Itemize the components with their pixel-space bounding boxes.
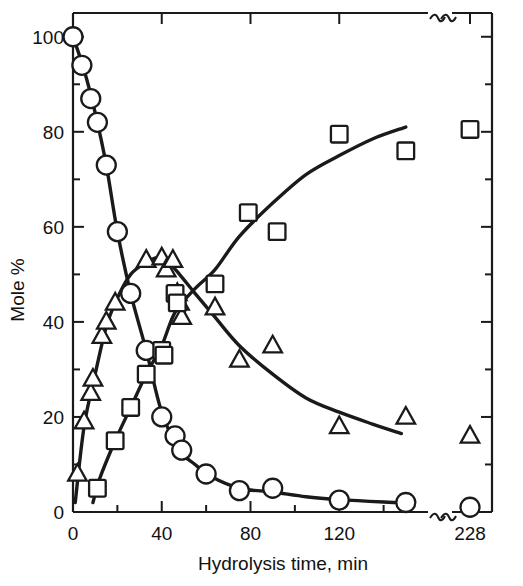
marker-triangle	[397, 407, 416, 424]
x-tick-label: 80	[240, 523, 261, 544]
marker-triangle	[84, 369, 103, 386]
marker-circle	[72, 56, 91, 75]
figure-canvas: 04080120228020406080100 Hydrolysis time,…	[0, 0, 523, 586]
y-tick-label: 0	[53, 502, 64, 523]
y-tick-label: 60	[43, 217, 64, 238]
marker-triangle	[75, 412, 94, 429]
marker-circle	[152, 407, 171, 426]
marker-square	[169, 295, 186, 312]
marker-square	[89, 480, 106, 497]
marker-square	[156, 347, 173, 364]
marker-square	[122, 399, 139, 416]
axis-break-marks	[430, 15, 456, 521]
marker-circle	[330, 491, 349, 510]
y-tick-label: 100	[32, 27, 64, 48]
y-tick-label: 40	[43, 312, 64, 333]
tick-labels: 04080120228020406080100	[32, 27, 486, 544]
y-tick-label: 80	[43, 122, 64, 143]
axis-ticks	[73, 13, 492, 512]
x-tick-label: 0	[68, 523, 79, 544]
x-tick-label: 228	[454, 523, 486, 544]
marker-square	[138, 366, 155, 383]
marker-triangle	[97, 312, 116, 329]
marker-square	[107, 432, 124, 449]
y-tick-label: 20	[43, 407, 64, 428]
axis-break-bottom-icon	[430, 514, 456, 521]
marker-circle	[461, 498, 480, 517]
hydrolysis-chart: 04080120228020406080100 Hydrolysis time,…	[0, 0, 523, 586]
marker-square	[269, 223, 286, 240]
marker-triangle	[206, 298, 225, 315]
marker-triangle	[68, 464, 87, 481]
marker-circle	[64, 27, 83, 46]
marker-circle	[172, 441, 191, 460]
marker-triangle	[263, 336, 282, 353]
marker-square	[240, 204, 257, 221]
marker-circle	[230, 481, 249, 500]
squares-curve	[93, 127, 406, 502]
marker-circle	[396, 493, 415, 512]
marker-triangle	[330, 417, 349, 434]
x-tick-label: 40	[151, 523, 172, 544]
x-axis-title: Hydrolysis time, min	[198, 553, 368, 574]
x-tick-label: 120	[323, 523, 355, 544]
marker-triangle	[461, 426, 480, 443]
marker-circle	[108, 222, 127, 241]
y-axis-title: Mole %	[7, 258, 28, 321]
plot-frame	[73, 13, 492, 512]
marker-square	[331, 126, 348, 143]
marker-circle	[81, 89, 100, 108]
axis-break-top-icon	[430, 15, 456, 22]
marker-circle	[121, 284, 140, 303]
marker-circle	[263, 479, 282, 498]
marker-square	[462, 121, 479, 138]
marker-circle	[197, 464, 216, 483]
marker-circle	[97, 156, 116, 175]
marker-circle	[88, 113, 107, 132]
marker-square	[398, 143, 415, 160]
marker-square	[207, 276, 224, 293]
